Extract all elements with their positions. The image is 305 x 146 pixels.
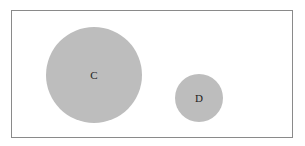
diagram-canvas: C D bbox=[0, 0, 305, 146]
circle-d-label: D bbox=[195, 92, 203, 104]
circle-c-label: C bbox=[90, 69, 97, 81]
